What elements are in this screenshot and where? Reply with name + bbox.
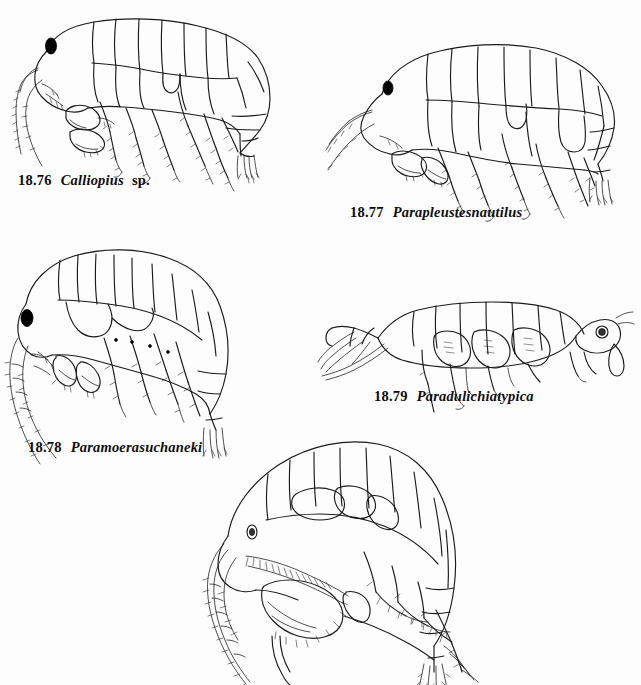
amphipod-drawing-18-76 xyxy=(8,6,298,176)
genus-name-18-79: Paradulichia xyxy=(417,388,498,404)
genus-name-18-76: Calliopius xyxy=(61,172,124,188)
caption-18-77: 18.77Parapleustesnautilus xyxy=(350,204,522,221)
figure-number-18-76: 18.76 xyxy=(18,172,52,188)
caption-18-79: 18.79Paradulichiatypica xyxy=(374,388,534,405)
figure-18-78 xyxy=(4,234,284,434)
figure-18-79 xyxy=(318,276,628,386)
qualifier-18-76: sp. xyxy=(132,172,150,188)
species-epithet-18-77: nautilus xyxy=(472,204,523,220)
amphipod-drawing-18-79 xyxy=(318,276,628,386)
illustration-plate: 18.76Calliopiussp. xyxy=(0,0,641,685)
figure-number-18-77: 18.77 xyxy=(350,204,384,220)
species-epithet-18-79: typica xyxy=(497,388,534,404)
caption-18-76: 18.76Calliopiussp. xyxy=(18,172,150,189)
figure-18-77 xyxy=(318,26,628,206)
figure-number-18-78: 18.78 xyxy=(28,439,62,455)
genus-name-18-77: Parapleustes xyxy=(393,204,472,220)
figure-18-76 xyxy=(8,6,298,176)
amphipod-drawing-18-78 xyxy=(4,234,284,434)
eye-pupil xyxy=(249,528,254,535)
amphipod-drawing-bottom xyxy=(168,432,498,682)
eye-pupil xyxy=(599,329,606,336)
amphipod-drawing-18-77 xyxy=(318,26,628,206)
eye-marking xyxy=(21,310,33,327)
eye-marking xyxy=(46,38,57,54)
genus-name-18-78: Paramoera xyxy=(71,439,140,455)
eye-marking xyxy=(383,81,393,95)
figure-number-18-79: 18.79 xyxy=(374,388,408,404)
figure-bottom-unlabeled xyxy=(168,432,498,682)
